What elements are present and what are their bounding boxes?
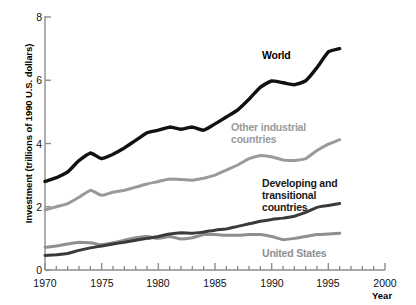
series-line-united-states [45,233,340,247]
series-label-world: World [262,50,291,62]
series-label-dev-line2: transitional [262,190,337,202]
series-label-other-line1: Other industrial [231,122,306,134]
series-label-dev-line1: Developing and [262,178,337,190]
investment-line-chart: Investment (trillions of 1990 U.S. dolla… [0,0,416,305]
series-label-other-industrial-countries: Other industrial countries [231,122,306,146]
chart-canvas [0,0,416,305]
series-label-other-line2: countries [231,134,306,146]
series-lines [45,49,340,256]
series-label-developing-transitional-countries: Developing and transitional countries [262,178,337,213]
series-label-dev-line3: countries [262,202,337,214]
series-label-united-states: United States [262,248,327,260]
